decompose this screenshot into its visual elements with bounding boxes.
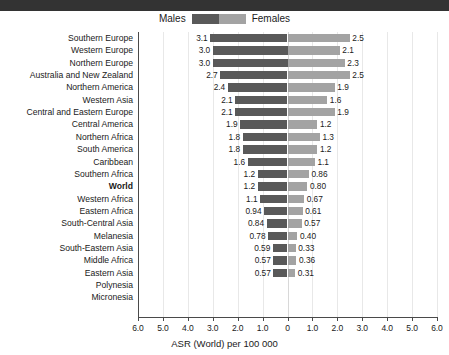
x-tick <box>213 317 214 321</box>
bar-female <box>288 182 308 190</box>
bar-value-female: 2.3 <box>347 57 359 69</box>
chart-row: South-Central Asia0.840.57 <box>0 217 449 229</box>
bar-value-female: 1.3 <box>322 131 334 143</box>
bar-value-male: 1.9 <box>226 118 238 130</box>
bar-value-female: 0.67 <box>307 193 323 205</box>
bar-female <box>288 232 298 240</box>
bar-value-male: 2.4 <box>214 81 226 93</box>
bar-value-female: 0.31 <box>298 267 314 279</box>
x-tick-label: 2.0 <box>232 323 244 333</box>
legend-label-males: Males <box>159 13 186 24</box>
top-decorative-band <box>0 0 449 11</box>
bar-female <box>288 207 303 215</box>
bar-male <box>273 244 288 252</box>
x-tick <box>263 317 264 321</box>
chart-row: Northern Europe3.02.3 <box>0 57 449 69</box>
category-label: Southern Europe <box>68 32 133 44</box>
chart-row: Southern Africa1.20.86 <box>0 168 449 180</box>
x-tick <box>337 317 338 321</box>
bar-female <box>288 59 345 67</box>
x-tick-label: 1.0 <box>307 323 319 333</box>
category-label: Western Europe <box>71 44 133 56</box>
category-label: Eastern Africa <box>80 205 134 217</box>
bar-male <box>248 158 288 166</box>
bar-value-male: 1.2 <box>244 168 256 180</box>
x-tick <box>387 317 388 321</box>
x-tick-label: 0 <box>285 323 290 333</box>
bar-male <box>258 170 288 178</box>
chart-row: Eastern Asia0.570.31 <box>0 267 449 279</box>
chart-row: Western Europe3.02.1 <box>0 44 449 56</box>
bar-value-female: 0.86 <box>311 168 327 180</box>
x-axis-title: ASR (World) per 100 000 <box>0 338 449 349</box>
bar-male <box>235 108 287 116</box>
bar-value-female: 1.9 <box>337 106 349 118</box>
bar-value-female: 0.36 <box>299 254 315 266</box>
x-tick-label: 4.0 <box>182 323 194 333</box>
category-label: Northern Europe <box>69 57 133 69</box>
bar-value-male: 0.84 <box>248 217 264 229</box>
bar-value-female: 1.6 <box>330 94 342 106</box>
category-label: Polynesia <box>96 279 133 291</box>
category-label: Caribbean <box>93 156 133 168</box>
category-label: South-Eastern Asia <box>59 242 133 254</box>
bar-female <box>288 256 297 264</box>
chart-row: Micronesia <box>0 291 449 303</box>
chart-row: South America1.81.2 <box>0 143 449 155</box>
bar-value-male: 0.57 <box>255 267 271 279</box>
chart-legend: Males Females <box>0 13 449 24</box>
bar-male <box>220 71 287 79</box>
bar-female <box>288 34 350 42</box>
bar-value-male: 1.1 <box>246 193 258 205</box>
chart-row: Northern America2.41.9 <box>0 81 449 93</box>
chart-row: Eastern Africa0.940.61 <box>0 205 449 217</box>
bar-value-female: 1.9 <box>337 81 349 93</box>
bar-value-male: 2.7 <box>206 69 218 81</box>
bar-value-male: 1.8 <box>229 143 241 155</box>
bar-female <box>288 83 335 91</box>
category-label: South America <box>77 143 133 155</box>
bar-male <box>243 145 288 153</box>
bar-female <box>288 46 340 54</box>
bar-male <box>260 195 287 203</box>
bar-male <box>213 59 288 67</box>
bar-female <box>288 195 305 203</box>
bar-value-female: 2.1 <box>342 44 354 56</box>
bar-value-male: 0.57 <box>255 254 271 266</box>
bar-value-male: 1.2 <box>244 180 256 192</box>
bar-value-male: 2.1 <box>221 94 233 106</box>
bar-value-female: 0.80 <box>310 180 326 192</box>
bar-male <box>210 34 287 42</box>
legend-label-females: Females <box>252 13 290 24</box>
category-label: South-Central Asia <box>61 217 133 229</box>
chart-row: Central America1.91.2 <box>0 118 449 130</box>
category-label: World <box>109 180 133 192</box>
category-label: Western Asia <box>83 94 133 106</box>
x-tick <box>163 317 164 321</box>
x-tick-label: 5.0 <box>406 323 418 333</box>
x-tick <box>362 317 363 321</box>
legend-swatch-males <box>192 14 219 24</box>
x-tick <box>138 317 139 321</box>
legend-swatch-females <box>219 14 246 24</box>
chart-row: Southern Europe3.12.5 <box>0 32 449 44</box>
category-label: Melanesia <box>94 230 133 242</box>
bar-female <box>288 170 309 178</box>
bar-male <box>264 207 287 215</box>
chart-row: Western Asia2.11.6 <box>0 94 449 106</box>
x-tick <box>188 317 189 321</box>
bar-female <box>288 158 315 166</box>
bar-female <box>288 244 296 252</box>
bar-male <box>268 232 287 240</box>
bar-value-female: 2.5 <box>352 32 364 44</box>
x-tick-label: 3.0 <box>207 323 219 333</box>
category-label: Southern Africa <box>74 168 133 180</box>
x-tick-label: 2.0 <box>332 323 344 333</box>
bar-male <box>267 219 288 227</box>
x-tick-label: 6.0 <box>431 323 443 333</box>
chart-row: World1.20.80 <box>0 180 449 192</box>
bar-value-female: 0.33 <box>298 242 314 254</box>
bar-female <box>288 108 335 116</box>
bar-value-female: 0.61 <box>305 205 321 217</box>
bar-male <box>258 182 288 190</box>
